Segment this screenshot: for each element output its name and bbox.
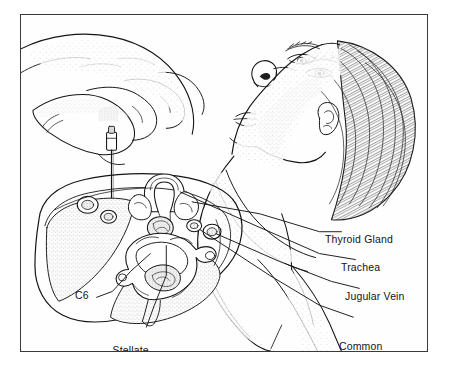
label-stellate-ganglion-line1: Stellate bbox=[109, 344, 152, 352]
vessel-pair-right bbox=[187, 220, 221, 239]
label-common-carotid-artery-line1: Common bbox=[339, 340, 405, 352]
neck-cross-section bbox=[35, 174, 242, 326]
label-thyroid-gland: Thyroid Gland bbox=[325, 233, 393, 246]
thyroid-gland-structure bbox=[128, 192, 198, 220]
label-jugular-vein: Jugular Vein bbox=[345, 290, 405, 303]
medical-illustration-figure: Thyroid Gland Trachea Jugular Vein Commo… bbox=[0, 0, 450, 372]
label-stellate-ganglion: Stellate Ganglion bbox=[109, 319, 152, 352]
patient-head bbox=[230, 41, 415, 220]
label-common-carotid-artery: Common Carotid Artery bbox=[339, 315, 405, 352]
label-c6: C6 bbox=[75, 289, 89, 302]
label-trachea: Trachea bbox=[341, 261, 380, 274]
illustration-frame: Thyroid Gland Trachea Jugular Vein Commo… bbox=[20, 14, 428, 352]
